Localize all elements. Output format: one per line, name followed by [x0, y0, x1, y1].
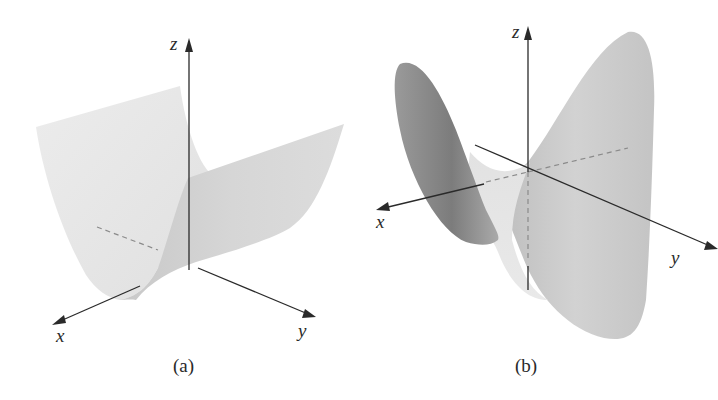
y-axis-label-a: y	[298, 321, 306, 340]
y-axis-arrow-icon-b	[704, 241, 718, 250]
y-axis-line	[198, 268, 308, 314]
surface-left-lobe	[395, 63, 499, 245]
figure: z x y (a) z x y (b)	[0, 0, 718, 400]
x-axis-label-b: x	[376, 212, 384, 231]
x-axis-line	[58, 286, 140, 322]
y-axis-arrow-icon	[302, 309, 316, 318]
z-axis-arrow-icon-b	[524, 26, 532, 40]
x-axis-arrow-icon-b	[376, 202, 390, 211]
z-axis-label-b: z	[512, 22, 519, 41]
x-axis-label-a: x	[56, 326, 64, 345]
caption-b: (b)	[515, 356, 537, 375]
z-axis-arrow-icon	[185, 38, 193, 52]
panel-a-graphic	[0, 0, 718, 400]
z-axis-label-a: z	[170, 34, 177, 53]
x-axis-arrow-icon	[52, 315, 66, 325]
y-axis-label-b: y	[671, 248, 679, 267]
caption-a: (a)	[173, 356, 194, 375]
